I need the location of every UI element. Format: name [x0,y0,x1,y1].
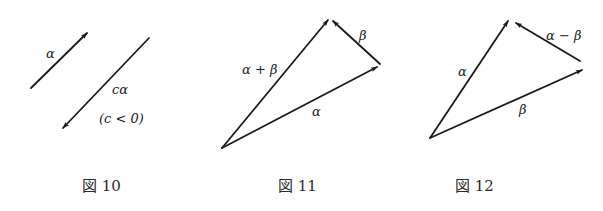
label-alpha-plus-beta: α + β [242,62,277,77]
vector-beta-arrow [333,21,380,64]
figure-10: α cα (c < 0) 図 10 [31,33,149,195]
caption-figure-11: 図 11 [278,177,317,195]
vector-alpha-arrow [222,67,377,148]
vector-diagrams: α cα (c < 0) 図 10 α + β β α 図 11 α α − β… [0,0,603,211]
figure-12: α α − β β 図 12 [430,21,582,195]
label-c-alpha: cα [112,82,128,97]
label-alpha-minus-beta: α − β [546,28,581,43]
vector-alpha-arrow [31,33,87,88]
figure-11: α + β β α 図 11 [222,20,380,195]
label-alpha: α [458,64,467,79]
caption-figure-12: 図 12 [455,177,494,195]
label-beta: β [518,102,527,117]
label-condition: (c < 0) [99,111,144,126]
vector-alpha-plus-beta-arrow [222,20,328,148]
label-alpha: α [46,46,55,61]
caption-figure-10: 図 10 [82,177,121,195]
label-beta: β [358,28,367,43]
label-alpha: α [312,104,321,119]
